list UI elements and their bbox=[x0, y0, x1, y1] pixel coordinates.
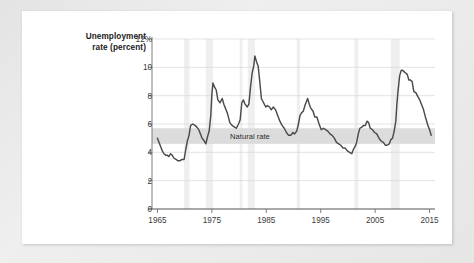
x-axis-tick-labels: 196519751985199520052015 bbox=[22, 11, 452, 244]
page-background: Unemployment rate (percent) 024681012% 1… bbox=[0, 0, 474, 263]
x-tick-label-1975: 1975 bbox=[203, 216, 221, 225]
x-tick-label-1965: 1965 bbox=[148, 216, 166, 225]
unemployment-rate-chart: Unemployment rate (percent) 024681012% 1… bbox=[22, 11, 452, 244]
figure-card: Unemployment rate (percent) 024681012% 1… bbox=[22, 11, 452, 244]
x-tick-label-1985: 1985 bbox=[257, 216, 275, 225]
x-tick-label-2005: 2005 bbox=[366, 216, 384, 225]
natural-rate-annotation: Natural rate bbox=[230, 132, 270, 141]
x-tick-label-1995: 1995 bbox=[312, 216, 330, 225]
x-tick-label-2015: 2015 bbox=[420, 216, 438, 225]
